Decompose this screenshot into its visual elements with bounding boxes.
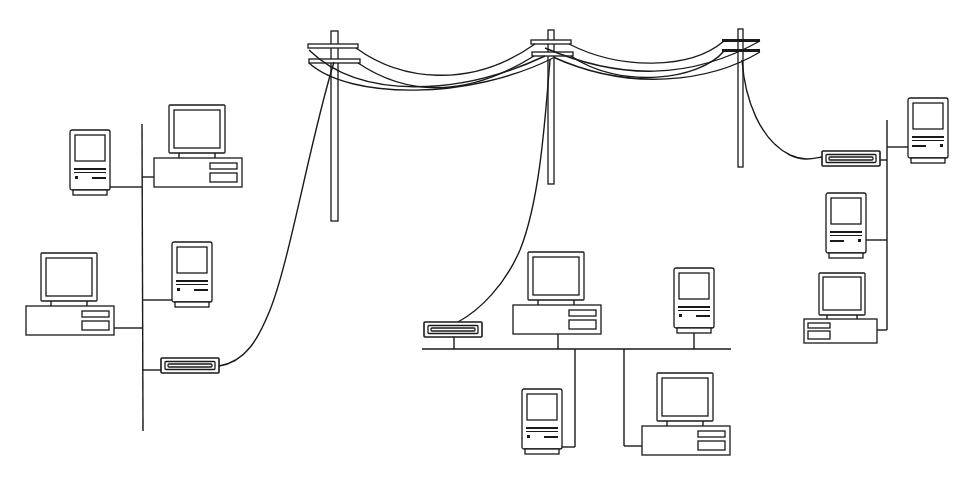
diagram-canvas — [0, 0, 975, 481]
compact-mac-icon[interactable] — [70, 130, 110, 195]
network-bus — [142, 124, 143, 431]
network-diagram — [0, 0, 975, 481]
compact-mac-icon[interactable] — [674, 268, 714, 333]
compact-mac-icon[interactable] — [172, 242, 212, 307]
drop-line-right — [742, 60, 822, 159]
desktop-pc-icon[interactable] — [154, 105, 242, 187]
drop-line-left — [219, 62, 334, 366]
desktop-pc-icon[interactable] — [804, 273, 877, 343]
desktop-pc-icon[interactable] — [26, 253, 114, 335]
compact-mac-icon[interactable] — [908, 98, 948, 163]
telephone-pole-icon — [531, 30, 573, 184]
modem-icon[interactable] — [424, 322, 482, 337]
left-lan — [26, 105, 242, 431]
compact-mac-icon[interactable] — [522, 389, 562, 454]
modem-icon[interactable] — [161, 358, 219, 373]
desktop-pc-icon[interactable] — [513, 252, 601, 334]
telephone-wires — [309, 41, 760, 90]
telephone-pole-icon — [722, 29, 760, 167]
modem-icon[interactable] — [822, 151, 880, 166]
desktop-pc-icon[interactable] — [642, 373, 730, 455]
telephone-pole-icon — [308, 31, 360, 221]
compact-mac-icon[interactable] — [826, 193, 866, 258]
right-lan — [804, 98, 948, 343]
center-lan — [422, 252, 731, 455]
